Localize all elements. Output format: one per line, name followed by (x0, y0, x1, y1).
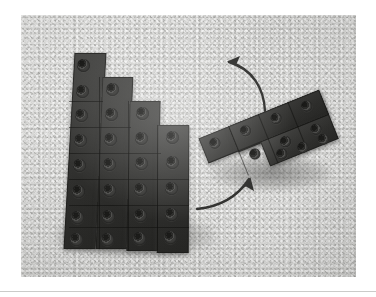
left-seam-v-2 (128, 101, 129, 251)
upper-arrow-shaft (229, 62, 265, 111)
left-stud (104, 133, 117, 146)
left-stud (136, 107, 149, 120)
left-stud (103, 184, 116, 197)
lower-arrow-shaft (197, 179, 249, 209)
left-seam-h-2 (69, 127, 131, 128)
left-stud (135, 132, 148, 145)
left-stud (70, 233, 83, 246)
left-stud (75, 109, 88, 122)
left-stud (135, 157, 148, 170)
left-seam-h-4 (69, 179, 189, 180)
left-stud (166, 156, 179, 169)
left-stud (105, 108, 118, 121)
left-seam-h-3 (69, 153, 161, 154)
left-stud (102, 210, 115, 223)
left-stud (72, 185, 85, 198)
left-stud (71, 211, 84, 224)
upper-arrow (207, 53, 277, 115)
left-stud (103, 158, 116, 171)
left-step-column-3 (126, 101, 160, 251)
left-stud (77, 59, 90, 72)
lower-arrow (191, 165, 269, 221)
left-seam-h-5 (69, 205, 189, 206)
upper-arrow-head (227, 56, 242, 69)
left-stud (134, 209, 147, 222)
left-seam-h-6 (69, 227, 189, 228)
left-seam-h-1 (69, 101, 103, 102)
left-stud (133, 232, 146, 245)
bricks-layer (21, 15, 356, 277)
photograph (21, 15, 356, 277)
bottom-rule (0, 291, 376, 292)
left-stud (165, 182, 178, 195)
left-stud (134, 183, 147, 196)
left-stud (106, 83, 119, 96)
left-stud (101, 233, 114, 246)
left-stud (74, 134, 87, 147)
left-stud (164, 231, 177, 244)
left-stud (73, 159, 86, 172)
right-stud (248, 147, 262, 161)
left-stud (76, 85, 89, 98)
page-root (0, 0, 376, 297)
left-seam-v-1 (99, 77, 100, 249)
left-stud (166, 131, 179, 144)
left-stud (165, 208, 178, 221)
left-seam-v-3 (157, 125, 158, 251)
